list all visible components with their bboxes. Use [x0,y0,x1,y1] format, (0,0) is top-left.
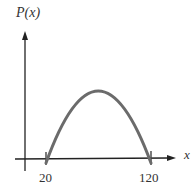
chart-canvas [0,0,196,192]
y-axis-arrow-icon [22,31,28,40]
tick-label-120: 120 [139,171,159,184]
x-axis [15,155,176,161]
x-axis-arrow-icon [167,155,176,161]
y-axis-label: P(x) [16,6,40,20]
parabola-curve [46,91,151,163]
y-axis [22,31,28,171]
x-axis-label: x [184,148,190,161]
tick-label-20: 20 [39,171,52,184]
